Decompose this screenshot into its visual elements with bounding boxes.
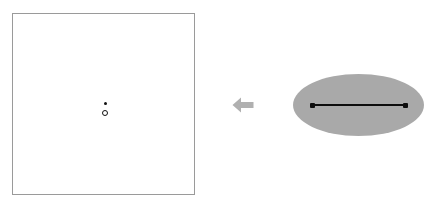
hollow-circle [102, 110, 108, 116]
filled-point [104, 102, 107, 105]
horizontal-segment [312, 104, 405, 106]
leftward-arrow-icon [232, 96, 254, 114]
bordered-square-region [12, 13, 195, 195]
shaded-ellipse-region [285, 66, 426, 144]
leftward-arrow [232, 96, 254, 114]
segment-endpoint-left [310, 103, 315, 108]
segment-endpoint-right [403, 103, 408, 108]
diagram-canvas [0, 0, 426, 210]
